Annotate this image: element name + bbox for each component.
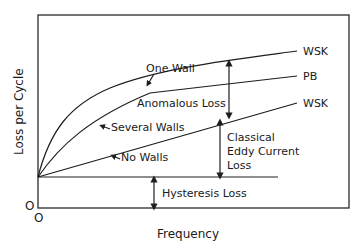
hysteresis-loss-label: Hysteresis Loss <box>162 187 247 200</box>
pb-label: PB <box>303 70 317 83</box>
wsk-top-label: WSK <box>303 45 329 58</box>
no-walls-label: No Walls <box>121 151 168 164</box>
classical-label-line3: Loss <box>227 159 251 172</box>
classical-label-line1: Classical <box>227 131 275 144</box>
several-walls-pointer-icon <box>102 126 110 129</box>
x-axis-label: Frequency <box>157 227 219 241</box>
several-walls-label: Several Walls <box>111 121 185 134</box>
one-wall-label: One Wall <box>146 62 195 75</box>
classical-label-line2: Eddy Current <box>227 145 300 158</box>
plot-frame <box>38 15 349 208</box>
wsk-bottom-label: WSK <box>303 97 329 110</box>
anomalous-loss-label: Anomalous Loss <box>137 97 226 110</box>
x-origin-label: O <box>34 211 43 225</box>
no-walls-pointer-icon <box>113 156 120 159</box>
loss-separation-diagram: One Wall Several Walls No Walls WSK PB W… <box>0 0 362 250</box>
y-axis-label: Loss per Cycle <box>12 68 26 155</box>
